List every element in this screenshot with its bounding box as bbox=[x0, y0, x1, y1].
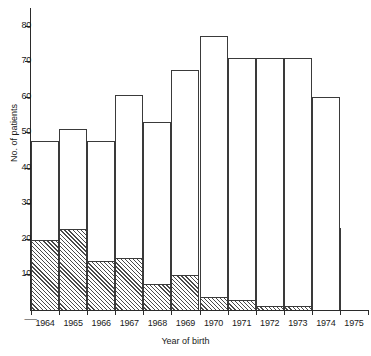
x-tick-mark-end bbox=[368, 311, 369, 315]
y-tick-label: 10 bbox=[7, 269, 31, 278]
y-tick-80: 80 bbox=[0, 26, 31, 27]
x-axis-title: Year of birth bbox=[0, 336, 371, 346]
y-tick-30: 30 bbox=[0, 203, 31, 204]
x-tick-mark-1973 bbox=[284, 311, 285, 315]
y-tick-label: 70 bbox=[7, 56, 31, 65]
bar-1970 bbox=[200, 36, 228, 310]
y-tick-10: 10 bbox=[0, 274, 31, 275]
y-tick-label: 40 bbox=[7, 163, 31, 172]
y-tick-label: 30 bbox=[7, 198, 31, 207]
bar-hatch-1964 bbox=[31, 240, 59, 311]
bar-1971 bbox=[228, 58, 256, 310]
x-tick-mark-1968 bbox=[143, 311, 144, 315]
x-tick-mark-1974 bbox=[312, 311, 313, 315]
y-tick-20: 20 bbox=[0, 239, 31, 240]
plot-area bbox=[31, 8, 368, 310]
bar-hatch-1966 bbox=[87, 261, 115, 311]
x-tick-mark-1972 bbox=[256, 311, 257, 315]
y-tick-label: 80 bbox=[7, 21, 31, 30]
y-tick-label: 50 bbox=[7, 127, 31, 136]
bar-1964 bbox=[31, 141, 59, 310]
y-tick-60: 60 bbox=[0, 97, 31, 98]
x-tick-mark-1975 bbox=[340, 311, 341, 315]
x-tick-mark-1970 bbox=[200, 311, 201, 315]
x-tick-mark-1966 bbox=[87, 311, 88, 315]
bar-1968 bbox=[143, 122, 171, 310]
bar-1973 bbox=[284, 58, 312, 310]
y-tick-70: 70 bbox=[0, 61, 31, 62]
bar-1967 bbox=[115, 95, 143, 310]
x-tick-mark-1965 bbox=[59, 311, 60, 315]
bar-1965 bbox=[59, 129, 87, 310]
bar-hatch-1969 bbox=[171, 275, 199, 311]
y-tick-label: 60 bbox=[7, 92, 31, 101]
bar-hatch-1965 bbox=[59, 229, 87, 311]
bar-chart: No. of patients 1020304050607080 1964196… bbox=[0, 0, 371, 356]
bar-1974 bbox=[312, 97, 340, 310]
bar-1966 bbox=[87, 141, 115, 310]
axis-break-marker: ⸺ bbox=[24, 316, 37, 324]
bar-1975 bbox=[340, 228, 341, 310]
x-tick-mark-1969 bbox=[171, 311, 172, 315]
bar-hatch-1970 bbox=[200, 297, 228, 311]
bar-1969 bbox=[171, 70, 199, 310]
bar-hatch-1967 bbox=[115, 258, 143, 311]
y-tick-label: 20 bbox=[7, 234, 31, 243]
bar-hatch-1968 bbox=[143, 284, 171, 311]
x-tick-label-1975: 1975 bbox=[326, 318, 371, 328]
y-tick-50: 50 bbox=[0, 132, 31, 133]
x-tick-mark-1971 bbox=[228, 311, 229, 315]
x-tick-mark-1967 bbox=[115, 311, 116, 315]
y-tick-40: 40 bbox=[0, 168, 31, 169]
bar-1972 bbox=[256, 58, 284, 310]
